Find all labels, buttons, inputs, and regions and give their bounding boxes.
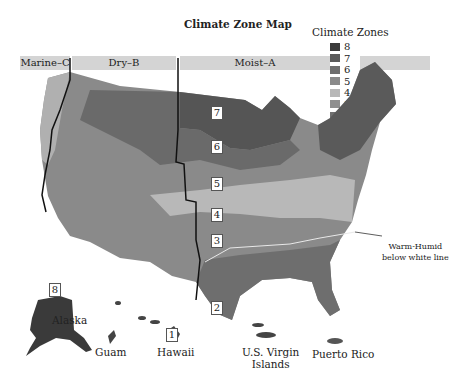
zone-marker-7: 7 <box>211 106 223 120</box>
zone-marker-4: 4 <box>211 208 223 222</box>
alaska <box>26 296 92 356</box>
zone-marker-2: 2 <box>211 301 223 315</box>
puerto-rico <box>327 338 343 344</box>
label-puerto-rico: Puerto Rico <box>312 348 374 360</box>
label-usvi: U.S. Virgin Islands <box>242 346 299 370</box>
label-hawaii: Hawaii <box>157 346 194 358</box>
zone-marker-5: 5 <box>211 177 223 191</box>
warm-humid-annotation: Warm-Humid below white line <box>382 241 449 263</box>
annotation-line2: below white line <box>382 252 449 263</box>
label-usvi-line2: Islands <box>242 358 299 370</box>
us-climate-map <box>0 0 451 384</box>
label-alaska: Alaska <box>52 314 87 326</box>
guam <box>108 330 116 344</box>
zone-marker-1: 1 <box>166 328 178 342</box>
zone-marker-8: 8 <box>49 283 61 297</box>
label-usvi-line1: U.S. Virgin <box>242 346 299 358</box>
usvi <box>256 332 276 338</box>
annotation-line1: Warm-Humid <box>382 241 449 252</box>
label-guam: Guam <box>95 346 126 358</box>
zone-marker-3: 3 <box>211 234 223 248</box>
northeast-dark <box>318 62 396 160</box>
zone-marker-6: 6 <box>211 140 223 154</box>
